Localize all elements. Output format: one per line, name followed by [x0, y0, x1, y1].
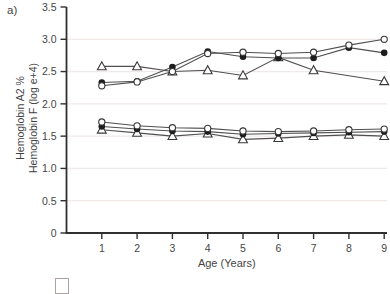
- marker-upper-open-triangle: [133, 62, 142, 70]
- y-tick-label: 0.5: [42, 195, 57, 207]
- x-axis-title: Age (Years): [198, 257, 256, 269]
- x-tick-label: 6: [275, 242, 281, 254]
- marker-lower-open-circle: [381, 126, 387, 132]
- marker-lower-open-circle: [169, 125, 175, 131]
- x-tick-label: 8: [346, 242, 352, 254]
- y-tick-label: 2.5: [42, 65, 57, 77]
- y-tick-label: 3.0: [42, 33, 57, 45]
- y-tick-label: 3.5: [42, 1, 57, 13]
- x-tick-label: 2: [134, 242, 140, 254]
- x-tick-label: 1: [99, 242, 105, 254]
- x-tick-label: 9: [381, 242, 387, 254]
- cropped-next-panel-symbol: [55, 278, 69, 294]
- marker-upper-open-circle: [134, 79, 140, 85]
- marker-upper-open-triangle: [97, 62, 106, 70]
- marker-lower-open-circle: [99, 119, 105, 125]
- y-tick-label: 0: [51, 227, 57, 239]
- marker-upper-open-triangle: [203, 66, 212, 74]
- marker-upper-open-circle: [99, 83, 105, 89]
- marker-lower-open-circle: [240, 128, 246, 134]
- y-tick-label: 2.0: [42, 98, 57, 110]
- marker-lower-open-circle: [275, 129, 281, 135]
- marker-upper-open-circle: [240, 49, 246, 55]
- marker-upper-open-circle: [205, 50, 211, 56]
- marker-upper-open-circle: [381, 36, 387, 42]
- x-tick-label: 7: [311, 242, 317, 254]
- marker-upper-open-circle: [346, 42, 352, 48]
- y-tick-label: 1.5: [42, 130, 57, 142]
- marker-lower-open-circle: [205, 125, 211, 131]
- marker-lower-open-circle: [134, 123, 140, 129]
- marker-upper-filled-circle: [381, 50, 388, 57]
- marker-lower-open-circle: [311, 128, 317, 134]
- marker-upper-open-circle: [311, 49, 317, 55]
- y-tick-label: 1.0: [42, 162, 57, 174]
- x-tick-label: 5: [240, 242, 246, 254]
- marker-upper-open-circle: [169, 68, 175, 74]
- marker-upper-open-circle: [275, 50, 281, 56]
- marker-lower-open-circle: [346, 127, 352, 133]
- x-tick-label: 3: [169, 242, 175, 254]
- x-tick-label: 4: [205, 242, 211, 254]
